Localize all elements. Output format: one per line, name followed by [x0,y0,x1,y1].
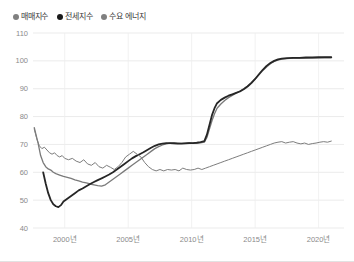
y-axis-tick-label: 100 [15,56,28,65]
y-axis-tick-label: 40 [20,224,28,233]
chart-series-group [34,57,331,207]
plot-area: 405060708090100110 2000년2005년2010년2015년2… [0,0,354,262]
series-line-2 [34,129,331,171]
y-axis-tick-label: 60 [20,168,28,177]
vertical-gridlines [65,33,319,228]
series-line-0 [34,58,331,187]
x-axis-tick-label: 2000년 [53,234,77,244]
y-axis-tick-label: 50 [20,196,28,205]
y-axis-tick-labels: 405060708090100110 [15,29,28,233]
series-line-1 [43,57,331,207]
y-axis-tick-label: 90 [20,84,28,93]
y-axis-tick-label: 110 [16,29,28,38]
y-axis-tick-label: 80 [20,112,28,121]
x-axis-tick-label: 2020년 [307,234,331,244]
x-axis-tick-label: 2015년 [243,234,267,244]
horizontal-gridlines [33,33,344,228]
x-axis-tick-label: 2010년 [180,234,204,244]
line-chart-svg: 405060708090100110 2000년2005년2010년2015년2… [0,0,354,262]
y-axis-tick-label: 70 [20,140,28,149]
chart-card: 매매지수 전세지수 수요 에너지 405060708090100110 2000… [0,0,354,262]
x-axis-tick-labels: 2000년2005년2010년2015년2020년 [53,234,331,244]
x-axis-tick-label: 2005년 [116,234,140,244]
